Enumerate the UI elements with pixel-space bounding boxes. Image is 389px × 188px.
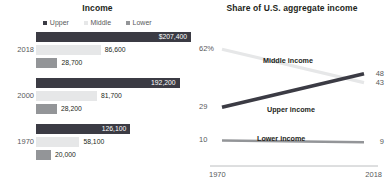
legend-swatch-lower [126,21,130,25]
legend-label: Lower [133,19,152,26]
x-tick-label-start: 1970 [209,170,226,179]
bar-group-2018: 2018$207,40086,60028,700 [0,32,195,73]
legend-label: Upper [50,19,69,26]
charts-figure: Income UpperMiddleLower 2018$207,40086,6… [0,0,389,188]
share-lines-svg [195,0,389,188]
bar-value-label: 20,000 [55,151,76,158]
start-value-middle: 62% [199,44,214,53]
income-bar-plot-area: 2018$207,40086,60028,7002000192,20081,70… [0,32,195,182]
start-value-lower: 10 [199,135,207,144]
line-upper-income [222,74,364,107]
bar-2018-upper: $207,400 [36,32,191,42]
bar-1970-upper: 126,100 [36,124,130,134]
bar-group-year-label: 1970 [4,137,34,146]
bar-group-1970: 1970126,10058,10020,000 [0,124,195,165]
bar-2000-upper: 192,200 [36,78,180,88]
bar-value-label: 86,600 [105,46,126,53]
bar-value-label: 192,200 [151,79,176,86]
series-label-upper-income: Upper income [267,105,315,114]
share-line-chart-panel: Share of U.S. aggregate income 62%432948… [195,0,389,188]
legend-item-lower: Lower [126,19,152,26]
bar-2018-middle: 86,600 [36,45,101,55]
end-value-lower: 9 [380,137,384,146]
series-label-lower-income: Lower income [257,134,305,143]
legend-swatch-middle [84,21,88,25]
bar-1970-middle: 58,100 [36,137,79,147]
end-value-upper: 48 [376,69,384,78]
share-line-plot-area: 62%432948109Middle incomeUpper incomeLow… [195,0,389,188]
bar-value-label: 58,100 [83,138,104,145]
income-chart-legend: UpperMiddleLower [0,19,195,26]
legend-item-upper: Upper [43,19,69,26]
bar-group-2000: 2000192,20081,70028,200 [0,78,195,119]
bar-2000-lower: 28,200 [36,104,57,114]
series-label-middle-income: Middle income [263,56,313,65]
end-value-middle: 43 [376,78,384,87]
bar-1970-lower: 20,000 [36,150,51,160]
income-chart-title: Income [0,3,195,13]
bar-value-label: 81,700 [101,92,122,99]
start-value-upper: 29 [199,102,207,111]
income-bar-chart-panel: Income UpperMiddleLower 2018$207,40086,6… [0,0,195,188]
bar-2018-lower: 28,700 [36,58,57,68]
legend-label: Middle [90,19,111,26]
bar-group-year-label: 2000 [4,91,34,100]
bar-value-label: 126,100 [102,125,127,132]
bar-value-label: $207,400 [159,33,187,40]
legend-swatch-upper [43,21,47,25]
bar-2000-middle: 81,700 [36,91,97,101]
bar-value-label: 28,700 [61,59,82,66]
bar-value-label: 28,200 [61,105,82,112]
bar-group-year-label: 2018 [4,45,34,54]
legend-item-middle: Middle [84,19,111,26]
x-tick-label-end: 2018 [365,170,382,179]
